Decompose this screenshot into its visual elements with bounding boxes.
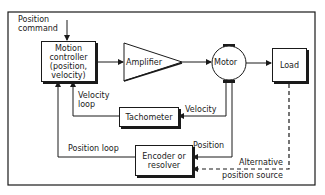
- alternative-position-source-line: [193, 84, 289, 169]
- amplifier-label: Amplifier: [126, 58, 162, 67]
- alternative-position-source-label: Alternative position source: [232, 158, 283, 180]
- encoder-resolver-block: Encoder or resolver: [135, 145, 193, 176]
- motor-label: Motor: [214, 58, 237, 67]
- velocity-loop-label: Velocity loop: [78, 91, 109, 109]
- position-command-label: Position command: [18, 15, 58, 33]
- load-block: Load: [272, 48, 307, 82]
- motion-controller-block: Motion controller (position, velocity): [41, 41, 96, 82]
- tachometer-block: Tachometer: [119, 107, 179, 127]
- position-loop-label: Position loop: [68, 144, 119, 153]
- velocity-signal-label: Velocity: [185, 105, 216, 114]
- position-signal-label: Position: [193, 141, 224, 150]
